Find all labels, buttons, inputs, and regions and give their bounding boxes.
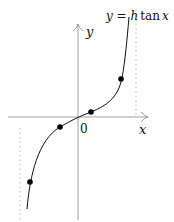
origin-label: 0 xyxy=(80,122,88,136)
data-point xyxy=(118,76,124,82)
data-point xyxy=(27,179,33,185)
function-label: y = htanx xyxy=(105,9,169,23)
x-axis-label: x xyxy=(139,122,147,137)
data-point xyxy=(57,124,63,130)
tan-diagram: y x 0 y = htanx xyxy=(0,0,174,222)
data-point xyxy=(88,109,94,115)
y-axis-label: y xyxy=(85,24,94,39)
